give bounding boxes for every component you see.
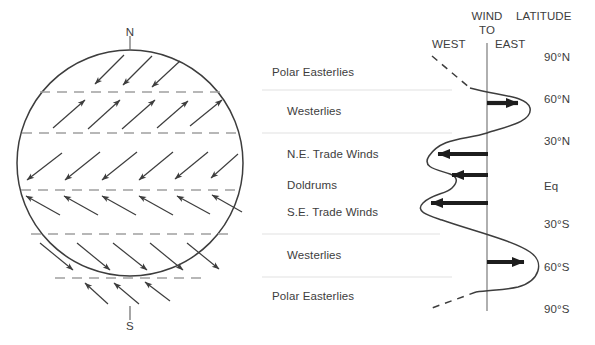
zone-label-polar-easterlies-north: Polar Easterlies <box>272 66 354 78</box>
zone-label-ne-trade-winds: N.E. Trade Winds <box>287 148 379 160</box>
header-east: EAST <box>495 38 525 50</box>
wind-magnitude-arrows <box>431 103 524 262</box>
header-to: TO <box>479 24 495 36</box>
zone-label-polar-easterlies-south: Polar Easterlies <box>272 290 354 302</box>
zone-label-doldrums: Doldrums <box>287 179 337 191</box>
north-pole-label: N <box>126 26 134 38</box>
globe-outline <box>17 50 243 276</box>
latitude-label-90n: 90°N <box>544 51 570 63</box>
wind-curve-south-dashed <box>432 292 476 308</box>
latitude-label-60n: 60°N <box>544 93 570 105</box>
latitude-label-90s: 90°S <box>544 303 569 315</box>
globe-group <box>17 36 243 320</box>
band-polar-easterlies-south <box>85 282 170 304</box>
wind-curve-north-dashed <box>432 56 470 88</box>
latitude-label-equator: Eq <box>544 180 558 192</box>
south-pole-label: S <box>126 320 134 332</box>
header-latitude: LATITUDE <box>516 10 572 22</box>
latitude-label-30n: 30°N <box>544 135 570 147</box>
latitude-label-30s: 30°S <box>544 218 569 230</box>
header-wind: WIND <box>471 10 502 22</box>
wind-belts-diagram: N S WIND TO WEST EAST LATITUDE Polar Eas… <box>0 0 595 345</box>
zone-label-se-trade-winds: S.E. Trade Winds <box>287 206 378 218</box>
zone-label-westerlies-south: Westerlies <box>287 249 341 261</box>
header-west: WEST <box>432 38 466 50</box>
zone-label-westerlies-north: Westerlies <box>287 105 341 117</box>
wind-profile-curve <box>420 56 538 308</box>
latitude-label-60s: 60°S <box>544 261 569 273</box>
